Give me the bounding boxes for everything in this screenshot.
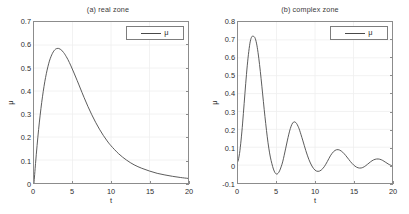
x-tick [33,181,34,184]
x-tick [276,181,277,184]
y-tick [390,112,393,113]
y-tick [390,39,393,40]
y-tick-label: 0.1 [225,143,235,152]
y-tick-label: 0.6 [225,53,235,62]
panel-a-curve [34,22,188,183]
y-tick [186,114,189,115]
x-tick [354,181,355,184]
y-tick-label: 0.3 [225,107,235,116]
y-tick [390,75,393,76]
panel-a-title: (a) real zone [0,5,204,14]
y-tick-label: 0.6 [21,40,31,49]
x-tick [237,181,238,184]
panel-b-legend[interactable]: μ [330,26,388,40]
panel-b-legend-label: μ [368,29,372,36]
y-tick-label: 0.4 [21,86,31,95]
y-tick-label: 0.5 [225,71,235,80]
x-tick-label: 15 [350,187,358,196]
x-tick-label: 20 [185,187,193,196]
panel-b-plot-area [237,21,393,184]
y-tick-label: 0.8 [225,17,235,26]
y-tick [186,137,189,138]
y-tick-label: 0.7 [225,35,235,44]
x-tick [72,181,73,184]
y-tick-label: 0 [27,180,31,189]
y-tick [390,184,393,185]
figure-container: (a) real zone 0510152000.10.20.30.40.50.… [0,0,409,214]
y-tick-label: 0.4 [225,89,235,98]
x-tick [150,181,151,184]
y-tick [390,148,393,149]
y-tick [186,44,189,45]
y-tick [186,91,189,92]
panel-b-xlabel: t [314,196,316,205]
y-tick-label: -0.1 [222,180,235,189]
legend-line-icon [345,33,365,34]
panel-a-legend[interactable]: μ [126,26,184,40]
x-tick-label: 15 [146,187,154,196]
panel-a-ylabel: μ [6,100,15,104]
y-tick [186,21,189,22]
panel-a-xlabel: t [110,196,112,205]
x-tick [111,181,112,184]
y-tick-label: 0.3 [21,110,31,119]
y-tick-label: 0.1 [21,156,31,165]
chart-panel-a: (a) real zone 0510152000.10.20.30.40.50.… [0,0,204,214]
y-tick-label: 0 [231,161,235,170]
x-tick-label: 20 [389,187,397,196]
y-tick [186,68,189,69]
x-tick-label: 0 [235,187,239,196]
panel-b-ylabel: μ [210,100,219,104]
y-tick [390,166,393,167]
y-tick-label: 0.2 [225,125,235,134]
y-tick [390,93,393,94]
panel-b-title: (b) complex zone [204,5,408,14]
x-tick [189,181,190,184]
y-tick [186,184,189,185]
y-tick-label: 0.5 [21,63,31,72]
x-tick [393,181,394,184]
x-tick-label: 10 [107,187,115,196]
x-tick-label: 10 [311,187,319,196]
legend-line-icon [141,33,161,34]
chart-panel-b: (b) complex zone 05101520-0.100.10.20.30… [204,0,408,214]
y-tick-label: 0.2 [21,133,31,142]
x-tick-label: 0 [31,187,35,196]
y-tick-label: 0.7 [21,17,31,26]
y-tick [186,161,189,162]
x-tick-label: 5 [274,187,278,196]
panel-a-legend-label: μ [164,29,168,36]
x-tick-label: 5 [70,187,74,196]
y-tick [390,21,393,22]
panel-a-plot-area [33,21,189,184]
x-tick [315,181,316,184]
y-tick [390,130,393,131]
y-tick [390,57,393,58]
panel-b-curve [238,22,392,183]
